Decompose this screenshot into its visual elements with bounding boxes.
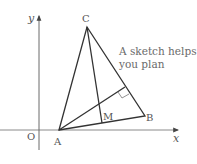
annotation-line-1: A sketch helps [118,45,197,57]
point-a-label: A [53,136,62,147]
geometry-diagram: y x O C A B M A sketch helps you plan [0,0,197,164]
point-b-label: B [146,112,153,123]
annotation-line-2: you plan [118,58,165,70]
origin-label: O [27,131,35,142]
y-axis-label: y [27,12,35,25]
point-m-label: M [103,111,113,122]
triangle-abc [59,27,145,130]
right-angle-marker [118,92,129,98]
median-cm [87,27,102,123]
point-c-label: C [82,13,90,24]
x-axis-label: x [173,132,180,145]
